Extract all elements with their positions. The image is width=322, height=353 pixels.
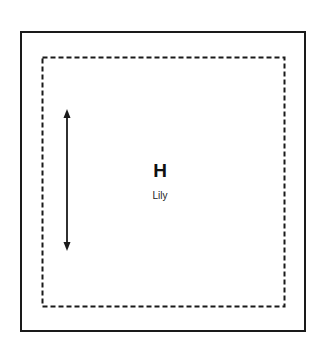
room-name-label: Lily <box>130 190 190 202</box>
room-letter-label: H <box>140 160 180 182</box>
